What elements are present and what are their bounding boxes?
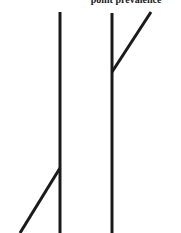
right-diagonal-branch [112, 12, 151, 72]
right-figure [112, 12, 151, 233]
diagram-canvas [0, 0, 181, 233]
left-figure [20, 12, 60, 233]
left-diagonal-branch [20, 168, 60, 233]
